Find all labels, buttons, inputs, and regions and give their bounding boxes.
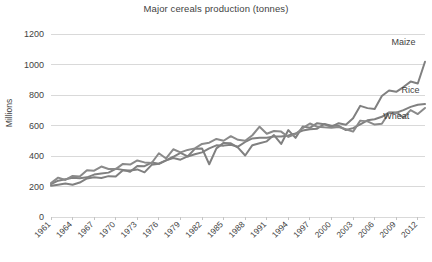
x-axis-tick-label: 1991 — [248, 219, 268, 239]
series-label-maize: Maize — [391, 37, 415, 47]
y-axis-tick-label: 600 — [29, 121, 44, 131]
x-axis-tick-label: 2000 — [313, 219, 333, 239]
gridlines-group — [51, 34, 425, 217]
x-axis-tick-label: 1964 — [54, 219, 74, 239]
y-axis-tick-labels: 020040060080010001200 — [24, 29, 44, 222]
x-axis-tick-label: 1994 — [270, 219, 290, 239]
y-axis-tick-label: 800 — [29, 90, 44, 100]
y-axis-tick-label: 400 — [29, 151, 44, 161]
y-axis-tick-label: 200 — [29, 182, 44, 192]
x-axis-tick-label: 1988 — [226, 219, 246, 239]
x-axis-tick-label: 1982 — [183, 219, 203, 239]
x-axis-tick-label: 1961 — [32, 219, 52, 239]
series-label-wheat: Wheat — [383, 111, 410, 121]
x-axis-tick-label: 1979 — [162, 219, 182, 239]
x-axis-tick-label: 2003 — [334, 219, 354, 239]
x-axis-tick-label: 1985 — [205, 219, 225, 239]
data-series-group — [51, 62, 425, 186]
x-axis-tick-label: 1967 — [75, 219, 95, 239]
y-axis-tick-label: 1200 — [24, 29, 44, 39]
plot-area: 020040060080010001200 196119641967197019… — [0, 0, 432, 262]
series-labels-group: MaizeRiceWheat — [383, 37, 419, 122]
x-axis-tick-label: 2012 — [399, 219, 419, 239]
cereals-production-chart: Major cereals production (tonnes) Millio… — [0, 0, 432, 262]
x-axis-tick-label: 1976 — [140, 219, 160, 239]
x-axis-tick-labels: 1961196419671970197319761979198219851988… — [32, 219, 419, 239]
x-axis-tick-label: 1997 — [291, 219, 311, 239]
series-line-rice — [51, 104, 425, 184]
x-axis-tick-label: 2009 — [377, 219, 397, 239]
series-line-maize — [51, 62, 425, 186]
x-axis-tick-label: 1970 — [97, 219, 117, 239]
y-axis-tick-label: 1000 — [24, 60, 44, 70]
series-label-rice: Rice — [402, 85, 420, 95]
x-axis-tick-label: 2006 — [356, 219, 376, 239]
x-axis-tick-label: 1973 — [118, 219, 138, 239]
